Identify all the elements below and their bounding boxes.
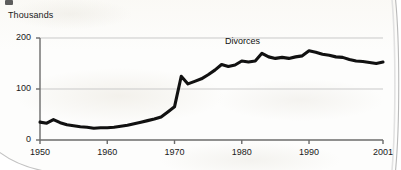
x-tick-label-1950: 1950 xyxy=(20,147,60,157)
y-tick-label-0: 0 xyxy=(5,134,31,144)
x-tick-label-1960: 1960 xyxy=(87,147,127,157)
x-tick-label-1980: 1980 xyxy=(222,147,262,157)
chart-plot-area xyxy=(0,0,401,170)
x-tick-label-1970: 1970 xyxy=(155,147,195,157)
y-tick-label-100: 100 xyxy=(5,83,31,93)
x-tick-label-2001: 2001 xyxy=(363,147,401,157)
x-tick-label-1990: 1990 xyxy=(289,147,329,157)
y-tick-label-200: 200 xyxy=(5,32,31,42)
divorces-line xyxy=(40,51,383,129)
series-annotation-divorces: Divorces xyxy=(225,36,260,46)
gridlines xyxy=(40,38,383,89)
